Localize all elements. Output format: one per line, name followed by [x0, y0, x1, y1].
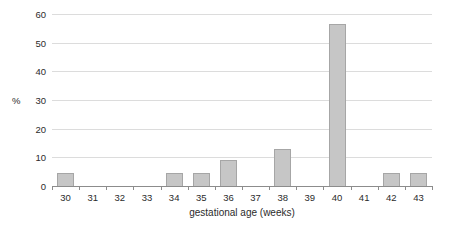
gridline [52, 157, 432, 158]
bar-week-40 [329, 24, 346, 186]
x-axis-tick [215, 186, 216, 190]
y-tick-label: 40 [0, 66, 46, 77]
x-tick-label: 37 [242, 192, 270, 203]
bar-week-42 [383, 173, 400, 186]
gridline [52, 129, 432, 130]
x-axis-tick [296, 186, 297, 190]
x-tick-label: 31 [79, 192, 107, 203]
x-axis-tick [106, 186, 107, 190]
gridline [52, 100, 432, 101]
x-axis-tick [269, 186, 270, 190]
x-axis-tick [161, 186, 162, 190]
x-tick-label: 36 [214, 192, 242, 203]
x-axis-tick [405, 186, 406, 190]
y-tick-label: 30 [0, 95, 46, 106]
x-axis-tick [79, 186, 80, 190]
gridline [52, 43, 432, 44]
bar-week-38 [274, 149, 291, 186]
x-tick-label: 30 [52, 192, 80, 203]
plot-area [52, 14, 432, 187]
bar-week-43 [410, 173, 427, 186]
x-tick-label: 39 [296, 192, 324, 203]
x-tick-label: 32 [106, 192, 134, 203]
x-tick-label: 35 [187, 192, 215, 203]
gridline [52, 71, 432, 72]
bar-week-34 [166, 173, 183, 186]
y-tick-label: 10 [0, 152, 46, 163]
y-tick-label: 20 [0, 124, 46, 135]
x-tick-label: 43 [404, 192, 432, 203]
y-tick-label: 50 [0, 38, 46, 49]
x-axis-tick [242, 186, 243, 190]
bar-week-36 [220, 160, 237, 186]
x-tick-label: 41 [350, 192, 378, 203]
x-axis-tick [133, 186, 134, 190]
y-tick-label: 60 [0, 9, 46, 20]
gridline [52, 14, 432, 15]
y-tick-label: 0 [0, 181, 46, 192]
x-axis-tick [323, 186, 324, 190]
bar-chart: % 0102030405060 303132333435363738394041… [0, 0, 458, 237]
x-axis-tick [432, 186, 433, 190]
x-tick-label: 33 [133, 192, 161, 203]
bar-week-35 [193, 173, 210, 186]
x-axis: 3031323334353637383940414243 [52, 186, 432, 206]
x-axis-tick [351, 186, 352, 190]
x-tick-label: 34 [160, 192, 188, 203]
x-axis-tick [52, 186, 53, 190]
x-tick-label: 42 [377, 192, 405, 203]
bar-week-30 [57, 173, 74, 186]
x-axis-title: gestational age (weeks) [52, 207, 432, 218]
x-axis-tick [378, 186, 379, 190]
x-tick-label: 40 [323, 192, 351, 203]
x-tick-label: 38 [269, 192, 297, 203]
x-axis-tick [188, 186, 189, 190]
